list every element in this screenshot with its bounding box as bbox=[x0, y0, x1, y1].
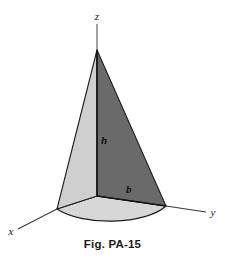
figure-caption: Fig. PA-15 bbox=[0, 238, 225, 250]
y-axis-line bbox=[166, 206, 206, 212]
base-label: b bbox=[126, 183, 132, 195]
cone-left-face bbox=[57, 50, 97, 209]
cone-diagram: z x y h b bbox=[0, 0, 225, 240]
height-label: h bbox=[101, 134, 107, 146]
y-axis-label: y bbox=[210, 206, 216, 218]
figure-container: z x y h b Fig. PA-15 bbox=[0, 0, 225, 265]
cone-right-face bbox=[97, 50, 166, 206]
x-axis-label: x bbox=[8, 225, 14, 237]
z-axis-label: z bbox=[94, 10, 100, 22]
x-axis-line bbox=[18, 209, 57, 229]
